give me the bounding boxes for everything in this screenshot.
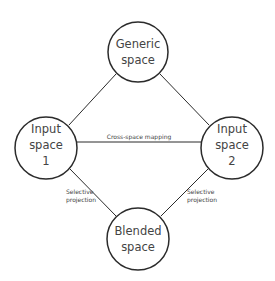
node-label: Input — [217, 122, 247, 136]
node-label: Blended — [114, 224, 161, 238]
node-label: Generic — [116, 37, 161, 51]
edge-label-projection-right: Selective — [187, 188, 215, 195]
conceptual-blending-diagram: Generic space Input space 1 Input space … — [0, 0, 275, 281]
node-input-space-1: Input space 1 — [15, 117, 77, 179]
node-label: 1 — [42, 154, 49, 168]
edge-input1-generic — [69, 74, 116, 125]
node-blended-space: Blended space — [107, 208, 169, 270]
edge-label-projection-right: projection — [187, 196, 217, 204]
node-label: Input — [31, 122, 61, 136]
node-label: space — [29, 138, 63, 152]
edge-label-projection-left: projection — [66, 196, 96, 204]
node-label: space — [121, 53, 155, 67]
node-label: space — [121, 240, 155, 254]
edge-label-cross-space: Cross-space mapping — [107, 133, 172, 141]
edge-generic-input2 — [160, 74, 209, 125]
node-generic-space: Generic space — [108, 22, 168, 82]
node-label: 2 — [228, 154, 235, 168]
node-input-space-2: Input space 2 — [201, 117, 263, 179]
edge-label-projection-left: Selective — [66, 188, 94, 195]
node-label: space — [215, 138, 249, 152]
